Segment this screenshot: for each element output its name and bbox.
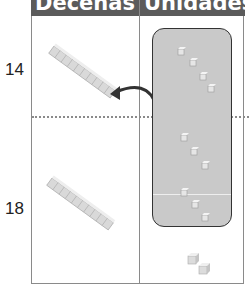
header-tens: Decenas	[35, 0, 135, 15]
row-label-14: 14	[5, 60, 24, 80]
tens-rod-icon	[46, 172, 126, 232]
unit-cube-icon	[180, 188, 189, 197]
header-ones: Unidades	[144, 0, 245, 15]
header-divider	[139, 0, 140, 16]
regroup-box-line	[153, 194, 231, 195]
unit-cube-icon	[189, 58, 198, 67]
column-divider	[139, 16, 140, 284]
row-label-18: 18	[5, 199, 24, 219]
unit-cube-icon	[201, 161, 210, 170]
unit-cube-icon	[207, 84, 216, 93]
unit-cube-icon	[177, 47, 186, 56]
table-header: Decenas Unidades	[31, 0, 245, 16]
unit-cube-icon	[199, 72, 208, 81]
unit-cube-icon	[201, 213, 210, 222]
regroup-arrow-icon	[108, 78, 158, 108]
unit-cube-icon	[190, 147, 199, 156]
unit-cube-icon	[191, 200, 200, 209]
unit-cube-icon	[198, 263, 210, 275]
unit-cube-icon	[180, 133, 189, 142]
